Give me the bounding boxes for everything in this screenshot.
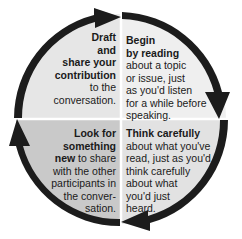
step-body-line: for a while before [126, 97, 226, 110]
step-body-line: participants in [18, 177, 116, 190]
step-body-line: as you'd listen [126, 84, 226, 97]
step-body-line: with the other [18, 165, 116, 178]
step-title-line: Begin [126, 34, 155, 46]
step-body-line: think carefully [126, 165, 226, 178]
step-body-line: heard. [126, 202, 226, 215]
step-title-line: by reading [126, 47, 179, 59]
step-body-line: conversation. [18, 94, 116, 107]
quadrant-bottom-right-text: Think carefully about what you've read, … [126, 127, 226, 215]
step-title-line: contribution [55, 69, 116, 81]
reading-writing-cycle-diagram: Draft and share your contribution to the… [0, 0, 242, 239]
quadrant-top-left-text: Draft and share your contribution to the… [18, 31, 116, 106]
step-body-line: about what you've [126, 140, 226, 153]
step-title-line: Think carefully [126, 127, 200, 139]
quadrant-bottom-left-text: Look for something new to share with the… [18, 127, 116, 215]
step-body-line: to the [18, 81, 116, 94]
step-title-line: Look for [74, 127, 116, 139]
step-title-line: and [97, 44, 116, 56]
step-title-line: Draft [91, 31, 116, 43]
step-title-line: something [63, 140, 116, 152]
step-body-line: read, just as you'd [126, 152, 226, 165]
step-body-text: to share [75, 152, 116, 164]
quadrant-top-right-text: Begin by reading about a topic or issue,… [126, 34, 226, 122]
step-body-line: the conver- [18, 190, 116, 203]
step-body-line: you'd just [126, 190, 226, 203]
step-body-line: or issue, just [126, 72, 226, 85]
step-title-line: share your [62, 56, 116, 68]
step-body-line: speaking. [126, 109, 226, 122]
step-title-line: new [55, 152, 75, 164]
step-body-line: sation. [18, 202, 116, 215]
step-body-line: about a topic [126, 59, 226, 72]
step-body-line: about what [126, 177, 226, 190]
